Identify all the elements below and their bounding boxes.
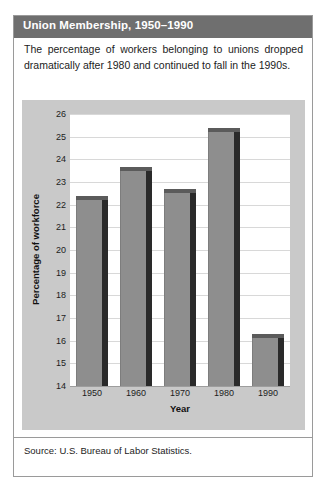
- source-divider: [14, 437, 312, 438]
- gridline: [70, 159, 290, 160]
- y-axis-tick-label: 14: [46, 381, 66, 391]
- figure-container: Union Membership, 1950–1990 The percenta…: [13, 15, 313, 477]
- bar-side-face: [234, 132, 240, 386]
- bar-front-face: [76, 200, 103, 386]
- bar-front-face: [120, 171, 147, 386]
- figure-description: The percentage of workers belonging to u…: [24, 42, 303, 73]
- y-axis-tick-label: 18: [46, 290, 66, 300]
- y-axis-tick-label: 23: [46, 177, 66, 187]
- bar: [252, 334, 284, 386]
- y-axis-tick-label: 16: [46, 336, 66, 346]
- x-axis-tick-label: 1950: [82, 388, 102, 398]
- figure-title-bar: Union Membership, 1950–1990: [14, 16, 312, 38]
- y-axis-tick-label: 20: [46, 245, 66, 255]
- x-axis-title: Year: [70, 403, 290, 414]
- gridline: [70, 114, 290, 115]
- y-axis-tick-label: 19: [46, 268, 66, 278]
- y-axis-tick-labels: 14151617181920212223242526: [42, 114, 66, 386]
- bar: [120, 167, 152, 386]
- bar-front-face: [208, 132, 235, 386]
- bar: [208, 128, 240, 386]
- y-axis-tick-label: 22: [46, 200, 66, 210]
- bar-side-face: [146, 171, 152, 386]
- y-axis-tick-label: 17: [46, 313, 66, 323]
- bar-side-face: [190, 193, 196, 386]
- x-axis-tick-label: 1970: [170, 388, 190, 398]
- y-axis-tick-label: 24: [46, 154, 66, 164]
- gridline: [70, 137, 290, 138]
- bar-front-face: [252, 338, 279, 386]
- figure-title: Union Membership, 1950–1990: [23, 19, 193, 31]
- x-axis-tick-label: 1990: [258, 388, 278, 398]
- plot-area: [70, 114, 290, 386]
- y-axis-tick-label: 26: [46, 109, 66, 119]
- y-axis-tick-label: 21: [46, 222, 66, 232]
- bar-side-face: [278, 338, 284, 386]
- gridline: [70, 182, 290, 183]
- y-axis-tick-label: 25: [46, 132, 66, 142]
- source-note: Source: U.S. Bureau of Labor Statistics.: [24, 445, 192, 456]
- x-axis-tick-labels: 19501960197019801990: [70, 388, 290, 404]
- bar: [164, 189, 196, 386]
- bar-front-face: [164, 193, 191, 386]
- x-axis-tick-label: 1960: [126, 388, 146, 398]
- x-axis-tick-label: 1980: [214, 388, 234, 398]
- bar-side-face: [102, 200, 108, 386]
- gridline: [70, 386, 290, 387]
- chart-panel: Percentage of workforce 1415161718192021…: [22, 100, 305, 430]
- y-axis-title: Percentage of workforce: [30, 160, 41, 340]
- bar: [76, 196, 108, 386]
- y-axis-tick-label: 15: [46, 358, 66, 368]
